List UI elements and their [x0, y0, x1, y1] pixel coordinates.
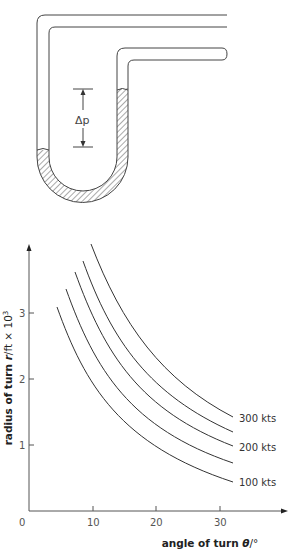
y-tick-label-2: 2 [19, 374, 25, 385]
y-axis-title: radius of turn r/ft × 103 [2, 311, 14, 446]
y-tick-label-1: 1 [19, 440, 25, 451]
curve-300-kts [91, 244, 233, 417]
x-tick-label-0: 0 [19, 517, 25, 528]
dp-label: Δp [75, 114, 90, 127]
x-tick-label-10: 10 [87, 517, 100, 528]
chart: 1 2 3 0 10 20 30 300 kts 200 kts 100 kts… [2, 244, 288, 549]
curve-250-kts [83, 261, 233, 432]
left-meniscus [37, 149, 49, 151]
y-axis-arrow-icon [27, 244, 32, 251]
y-tick-label-3: 3 [19, 308, 25, 319]
curve-label-200-kts: 200 kts [239, 442, 276, 453]
manometer-outer-wall [37, 15, 227, 203]
figure: Δp 1 2 3 0 10 20 30 300 kts 200 kts 100 … [0, 0, 292, 554]
x-axis-title: angle of turn θ/° [162, 537, 259, 549]
x-tick-label-20: 20 [150, 517, 163, 528]
dp-arrowhead-up [81, 89, 86, 95]
manometer-diagram: Δp [37, 15, 227, 203]
curve-label-300-kts: 300 kts [239, 413, 276, 424]
x-axis-arrow-icon [281, 509, 288, 514]
curve-label-100-kts: 100 kts [239, 477, 276, 488]
x-tick-label-30: 30 [214, 517, 227, 528]
dp-arrowhead-down [81, 141, 86, 147]
